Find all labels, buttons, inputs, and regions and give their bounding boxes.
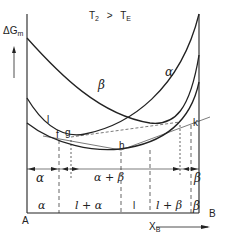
point-g-label: g (65, 128, 71, 138)
liquid-curve (27, 82, 199, 150)
y-axis-arrow-icon (12, 46, 16, 78)
beta-curve (27, 38, 199, 123)
point-h-label: h (119, 141, 125, 151)
upper-region-alpha-beta: α + β (94, 172, 124, 183)
lower-region-beta: β (193, 200, 200, 212)
upper-region-beta: β (194, 172, 201, 184)
tangent-f-h (43, 136, 121, 150)
alpha-curve (27, 14, 199, 135)
lower-region-alpha: α (38, 200, 45, 211)
axis-end-b: B (209, 209, 216, 219)
liquid-curve-label: l (47, 115, 49, 125)
axis-end-a: A (22, 216, 29, 226)
beta-curve-label: β (98, 79, 105, 91)
x-axis-arrow-icon (156, 225, 210, 229)
point-f-label: f (56, 130, 59, 140)
alpha-curve-label: α (165, 66, 173, 78)
upper-region-alpha: α (36, 172, 44, 184)
point-k-label: k (193, 118, 198, 128)
x-axis-label: XB (149, 222, 160, 233)
lower-region-l-beta: l + β (156, 200, 182, 211)
lower-region-l: l (133, 201, 135, 211)
title-label: T2 > TE (89, 11, 131, 22)
y-axis-label: ΔGm (3, 26, 23, 37)
lower-region-l-alpha: l + α (75, 200, 102, 211)
